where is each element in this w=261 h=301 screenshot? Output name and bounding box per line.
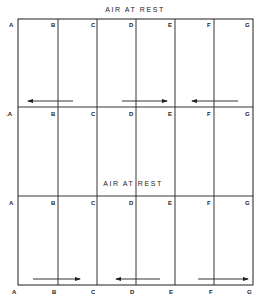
label-a: A	[9, 200, 13, 206]
label-b: B	[51, 200, 55, 206]
label-d: D	[129, 200, 133, 206]
label-c: C	[91, 200, 95, 206]
label-g: G	[247, 289, 252, 295]
label-c: C	[91, 289, 95, 295]
label-d: D	[130, 289, 134, 295]
label-a: .A	[6, 111, 12, 117]
label-e: E	[168, 200, 172, 206]
label-d: D	[129, 111, 133, 117]
label-b: B	[51, 22, 55, 28]
label-e: E	[169, 289, 173, 295]
air-at-rest-diagram: AIR AT REST AIR AT REST A B C D E F	[0, 0, 261, 301]
label-g: G	[245, 111, 250, 117]
label-b: B	[51, 111, 55, 117]
label-f: F	[207, 200, 211, 206]
label-a: A	[9, 22, 13, 28]
label-g: G	[245, 200, 250, 206]
label-c: C	[91, 111, 95, 117]
diagram-grid	[0, 0, 261, 301]
label-a: A	[12, 289, 16, 295]
label-e: E	[168, 111, 172, 117]
label-e: E	[168, 22, 172, 28]
label-f: F	[207, 111, 211, 117]
label-f: F	[207, 22, 211, 28]
label-c: C	[91, 22, 95, 28]
label-b: B	[52, 289, 56, 295]
label-f: F	[209, 289, 213, 295]
label-g: G	[245, 22, 250, 28]
label-d: D	[129, 22, 133, 28]
frame	[18, 19, 253, 285]
